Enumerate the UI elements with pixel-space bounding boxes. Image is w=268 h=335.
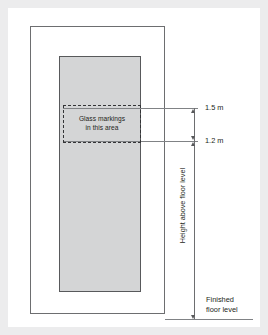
dimension-label-lower: 1.2 m bbox=[205, 136, 223, 145]
finished-floor-level-caption: Finished floor level bbox=[206, 295, 238, 315]
height-above-floor-caption: Height above floor level bbox=[178, 168, 187, 243]
glass-panel bbox=[59, 56, 141, 292]
finished-floor-level-line2: floor level bbox=[206, 305, 238, 314]
glass-marking-zone-label-line2: in this area bbox=[86, 124, 119, 131]
arrowhead-up-icon bbox=[191, 109, 195, 113]
glass-marking-zone-label-line1: Glass markings bbox=[79, 115, 125, 122]
diagram-figure: Glass markings in this area 1.5 m 1.2 m … bbox=[8, 8, 260, 327]
arrowhead-up-icon bbox=[191, 142, 195, 146]
glass-marking-zone-label: Glass markings in this area bbox=[79, 115, 125, 132]
glass-marking-zone: Glass markings in this area bbox=[63, 105, 141, 143]
arrowhead-down-icon bbox=[191, 136, 195, 140]
finished-floor-level-line1: Finished bbox=[206, 295, 234, 304]
dimension-label-upper: 1.5 m bbox=[205, 103, 223, 112]
arrowhead-down-icon bbox=[191, 315, 195, 319]
finished-floor-line bbox=[165, 319, 253, 320]
dimension-line-height-above-floor bbox=[194, 141, 195, 319]
